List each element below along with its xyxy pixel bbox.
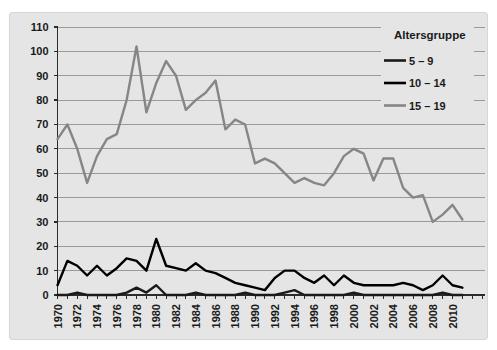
x-axis-label: 1996 <box>308 304 320 328</box>
x-axis-label: 1992 <box>269 304 281 328</box>
y-axis-label: 10 <box>36 265 48 277</box>
y-axis-label: 50 <box>36 167 48 179</box>
x-axis-label: 2002 <box>368 304 380 328</box>
y-axis-label: 110 <box>31 21 49 33</box>
x-axis-label: 1988 <box>229 304 241 328</box>
x-axis-label: 1974 <box>91 303 103 328</box>
y-axis-label: 20 <box>36 240 48 252</box>
y-axis-label: 90 <box>36 70 48 82</box>
x-axis-label: 1972 <box>71 304 83 328</box>
x-axis-label: 1980 <box>150 304 162 328</box>
x-axis-label: 1982 <box>170 304 182 328</box>
x-axis-label: 1986 <box>210 304 222 328</box>
x-axis-label: 2008 <box>427 304 439 328</box>
x-axis-label: 1984 <box>190 303 202 328</box>
line-chart: 0102030405060708090100110197019721974197… <box>0 0 497 350</box>
y-axis-label: 60 <box>36 143 48 155</box>
legend-title: Altersgruppe <box>394 29 466 41</box>
x-axis-label: 2006 <box>407 304 419 328</box>
x-axis-label: 1970 <box>52 304 64 328</box>
x-axis-label: 2004 <box>387 303 399 328</box>
y-axis-label: 70 <box>36 118 48 130</box>
x-axis-label: 1994 <box>289 303 301 328</box>
legend-label: 5 – 9 <box>409 55 433 67</box>
y-axis-label: 30 <box>36 216 48 228</box>
x-axis-label: 1978 <box>131 304 143 328</box>
x-axis-label: 1976 <box>111 304 123 328</box>
x-axis-label: 2000 <box>348 304 360 328</box>
legend-label: 15 – 19 <box>409 100 446 112</box>
x-axis-label: 1990 <box>249 304 261 328</box>
x-axis-label: 2010 <box>447 304 459 328</box>
y-axis-label: 0 <box>42 289 48 301</box>
x-axis-label: 1998 <box>328 304 340 328</box>
y-axis-label: 80 <box>36 94 48 106</box>
legend-label: 10 – 14 <box>409 77 447 89</box>
y-axis-label: 100 <box>30 45 48 57</box>
y-axis-label: 40 <box>36 192 48 204</box>
chart-figure: 0102030405060708090100110197019721974197… <box>0 0 497 350</box>
